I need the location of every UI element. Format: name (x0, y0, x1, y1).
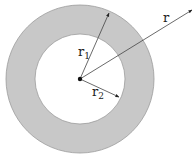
label-r: r (163, 10, 170, 25)
center-dot (78, 77, 82, 81)
annulus-diagram: r1 r2 r (0, 0, 193, 165)
